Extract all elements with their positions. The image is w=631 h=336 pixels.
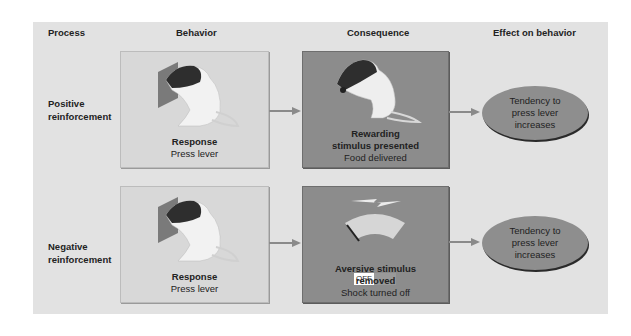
behavior-box-negative: Response Press lever <box>120 186 269 303</box>
effect-text: Tendency to press lever increases <box>497 225 573 261</box>
rat-eating-icon <box>331 56 426 124</box>
behavior-title: Response <box>121 271 268 283</box>
header-effect: Effect on behavior <box>493 27 576 38</box>
behavior-box-positive: Response Press lever <box>120 51 269 168</box>
consequence-detail: Shock turned off <box>341 287 410 298</box>
arrow-consequence-to-effect-negative <box>449 241 478 243</box>
effect-ellipse-positive: Tendency to press lever increases <box>482 86 588 140</box>
consequence-caption-positive: Rewarding stimulus presented Food delive… <box>303 128 448 164</box>
header-consequence: Consequence <box>347 27 409 38</box>
effect-ellipse-negative: Tendency to press lever increases <box>482 216 588 270</box>
consequence-box-positive: Rewarding stimulus presented Food delive… <box>302 51 449 168</box>
row-label-positive: Positive reinforcement <box>48 97 118 123</box>
shock-gauge-icon <box>343 195 413 245</box>
header-behavior: Behavior <box>176 27 217 38</box>
rat-pressing-lever-icon <box>156 60 241 132</box>
arrow-behavior-to-consequence-negative <box>269 242 299 244</box>
consequence-title: Rewarding stimulus presented <box>331 128 421 152</box>
lightning-bolt-icon <box>351 199 401 207</box>
consequence-title: Aversive stimulus removed <box>331 263 421 287</box>
effect-text: Tendency to press lever increases <box>497 95 573 131</box>
row-label-negative: Negative reinforcement <box>48 240 118 266</box>
behavior-detail: Press lever <box>171 148 219 159</box>
consequence-detail: Food delivered <box>344 152 407 163</box>
behavior-caption-negative: Response Press lever <box>121 271 268 295</box>
behavior-caption-positive: Response Press lever <box>121 136 268 160</box>
arrow-consequence-to-effect-positive <box>449 111 478 113</box>
behavior-title: Response <box>121 136 268 148</box>
behavior-detail: Press lever <box>171 283 219 294</box>
arrow-behavior-to-consequence-positive <box>269 110 299 112</box>
consequence-caption-negative: Aversive stimulus removed Shock turned o… <box>303 263 448 299</box>
rat-pressing-lever-icon <box>156 195 241 267</box>
header-process: Process <box>48 27 85 38</box>
consequence-box-negative: OFF Aversive stimulus removed Shock turn… <box>302 186 449 303</box>
